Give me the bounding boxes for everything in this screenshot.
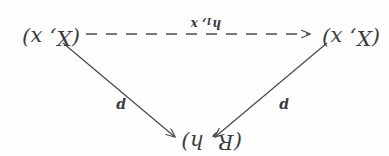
edge-label-bottom-tail: , x — [190, 17, 206, 31]
edge-label-bottom-main: h — [212, 17, 221, 31]
node-bottom-right: (X, x) — [22, 26, 80, 50]
edge-label-bottom-subscript: 1 — [206, 16, 212, 26]
figure-canvas: (R, h) (X, x) (X, x) p p h1, x — [0, 0, 389, 156]
edge-label-left-p: p — [279, 98, 289, 114]
edge-label-bottom-h1x: h1, x — [190, 16, 221, 31]
arrow-left-to-top — [215, 43, 327, 137]
edge-label-right-p: p — [116, 98, 126, 114]
node-top: (R, h) — [181, 130, 242, 154]
commutative-diagram: (R, h) (X, x) (X, x) p p h1, x — [0, 0, 389, 156]
node-bottom-left: (X, x) — [322, 26, 380, 50]
arrow-right-to-top — [63, 43, 175, 137]
